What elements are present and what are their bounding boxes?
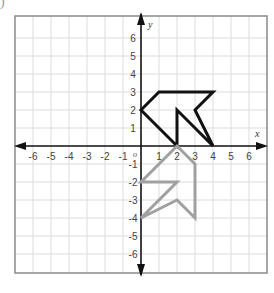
y-tick-label: -6 [129,249,138,260]
y-tick-label: 3 [130,87,136,98]
y-tick-label: -2 [129,177,138,188]
y-axis-down-arrow-icon [137,264,145,277]
x-axis-right-arrow-icon [256,142,268,150]
x-tick-label: 6 [246,151,252,162]
y-tick-label: 6 [130,33,136,44]
y-tick-label: 2 [130,105,136,116]
y-tick-label: -1 [129,159,138,170]
x-tick-label: 4 [210,151,216,162]
x-tick-label: 5 [228,151,234,162]
x-tick-label: -5 [47,151,56,162]
x-tick-label: -3 [83,151,92,162]
x-tick-label: -2 [101,151,110,162]
y-tick-label: -5 [129,231,138,242]
coordinate-plane: -6-5-4-3-2-1123456654321-1-2-3-4-5-6oyx [0,0,274,293]
x-tick-label: -1 [119,151,128,162]
x-tick-label: -6 [29,151,38,162]
y-tick-label: -4 [129,213,138,224]
x-tick-label: -4 [65,151,74,162]
y-axis-label: y [147,19,153,30]
y-axis-up-arrow-icon [137,12,145,25]
x-axis-left-arrow-icon [14,142,26,150]
y-tick-label: 5 [130,51,136,62]
y-tick-label: 4 [130,69,136,80]
x-axis-label: x [254,128,260,139]
origin-label: o [133,150,137,159]
x-tick-label: 2 [174,151,180,162]
y-tick-label: 1 [130,123,136,134]
y-tick-label: -3 [129,195,138,206]
